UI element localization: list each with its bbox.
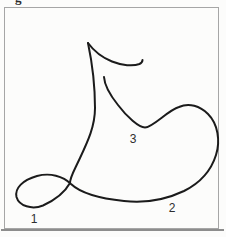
stroke-curve-drawing [0,0,226,237]
stroke-point-label-1: 1 [28,212,40,226]
stroke-point-label-2: 2 [166,201,178,215]
main-stroke-path [16,43,218,207]
scanned-figure-page: g 1 2 3 [0,0,226,237]
top-hook-path [88,43,143,65]
stroke-point-label-3: 3 [127,132,139,146]
